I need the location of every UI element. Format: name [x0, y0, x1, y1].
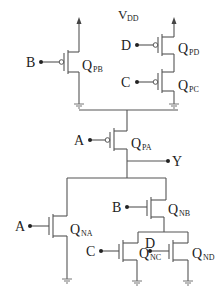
input-label-b: B	[26, 55, 35, 70]
input-node-icon	[28, 224, 32, 228]
input-node-icon	[135, 80, 139, 84]
svg-text:NA: NA	[81, 229, 93, 238]
input-node-icon	[125, 205, 129, 209]
input-label-b: B	[112, 200, 121, 215]
input-label-a: A	[74, 133, 85, 148]
input-node-icon	[39, 60, 43, 64]
schematic: B Q PB V DD D Q PD C Q PC	[0, 0, 220, 299]
svg-text:Q: Q	[168, 202, 178, 217]
arrow-up-icon	[77, 17, 82, 24]
inversion-bubble-icon	[105, 138, 110, 143]
transistor-qpc: C Q PC	[121, 69, 199, 104]
svg-text:Q: Q	[192, 246, 202, 261]
svg-text:Q: Q	[178, 41, 188, 56]
transistor-qpa: A Q PA	[74, 110, 152, 178]
arrow-up-icon	[172, 17, 177, 24]
transistor-qpb: B Q PB	[26, 17, 103, 104]
svg-text:Q: Q	[82, 58, 92, 73]
ground-icon	[74, 104, 84, 108]
input-label-c: C	[121, 75, 130, 90]
svg-text:Q: Q	[131, 136, 141, 151]
svg-text:NC: NC	[150, 253, 161, 262]
svg-text:Q: Q	[70, 222, 80, 237]
ground-icon	[169, 104, 179, 108]
svg-text:PB: PB	[93, 65, 103, 74]
inversion-bubble-icon	[153, 80, 158, 85]
input-label-a: A	[15, 219, 26, 234]
output-node-icon	[166, 159, 170, 163]
input-label-d: D	[121, 38, 131, 53]
ground-icon	[183, 281, 193, 285]
svg-text:DD: DD	[127, 14, 139, 23]
input-node-icon	[135, 43, 139, 47]
input-node-icon	[99, 249, 103, 253]
ground-icon	[132, 281, 142, 285]
input-label-d: D	[145, 236, 155, 251]
inversion-bubble-icon	[153, 43, 158, 48]
circuit-diagram: B Q PB V DD D Q PD C Q PC	[0, 0, 220, 299]
transistor-qnb: B Q NB	[112, 197, 190, 232]
svg-text:ND: ND	[203, 253, 215, 262]
svg-text:NB: NB	[179, 209, 190, 218]
svg-text:PC: PC	[189, 85, 199, 94]
svg-text:PD: PD	[189, 48, 199, 57]
ground-icon	[62, 279, 72, 283]
transistor-qna: A Q NA	[15, 214, 93, 283]
output-label-y: Y	[172, 154, 182, 169]
transistor-qpd: D Q PD	[121, 17, 199, 72]
input-label-c: C	[86, 244, 95, 259]
svg-text:Q: Q	[178, 78, 188, 93]
svg-text:PA: PA	[142, 143, 152, 152]
input-node-icon	[88, 138, 92, 142]
inversion-bubble-icon	[59, 60, 64, 65]
